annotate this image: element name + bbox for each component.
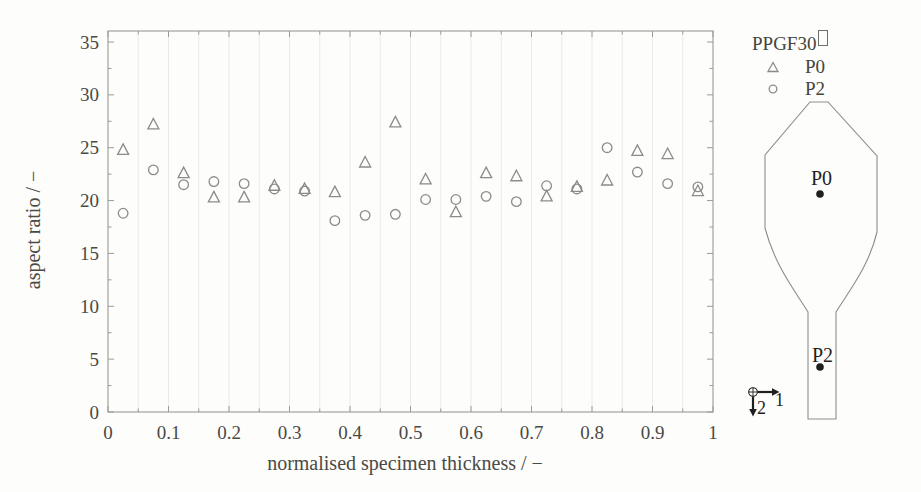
x-tick-label: 0.9	[641, 422, 665, 443]
y-tick-label: 20	[80, 190, 99, 211]
p0-label: P0	[811, 167, 832, 189]
p0-triangle-marker	[450, 206, 461, 217]
legend-superscript-box-icon	[818, 30, 828, 46]
p2-circle-marker	[481, 192, 491, 202]
x-tick-label: 0.6	[459, 422, 483, 443]
p2-circle-marker	[663, 179, 673, 189]
x-tick-label: 1	[708, 422, 718, 443]
y-tick-label: 10	[80, 296, 99, 317]
p0-triangle-marker	[662, 148, 673, 159]
x-tick-label: 0.3	[278, 422, 302, 443]
p2-circle-marker	[270, 184, 280, 194]
x-tick-label: 0.2	[217, 422, 241, 443]
p0-triangle-marker	[118, 144, 129, 155]
p2-label: P2	[812, 344, 833, 366]
x-tick-label: 0.8	[580, 422, 604, 443]
axis1-label: 1	[775, 390, 784, 410]
axis2-label: 2	[757, 398, 766, 418]
p2-circle-marker	[391, 210, 401, 220]
p2-circle-marker	[360, 211, 370, 221]
p2-circle-marker	[239, 179, 249, 189]
figure: P0 P2 1 2 00.10.20.30.40.50.60.70.80.910…	[0, 0, 921, 492]
p0-triangle-marker	[148, 118, 159, 128]
p0-triangle-marker	[239, 191, 250, 202]
circle-marker-icon	[765, 82, 781, 96]
p2-circle-marker	[572, 184, 582, 194]
p0-triangle-marker	[602, 174, 613, 185]
x-tick-label: 0.1	[157, 422, 181, 443]
p0-triangle-marker	[420, 173, 431, 184]
x-tick-label: 0.4	[338, 422, 362, 443]
x-tick-label: 0.5	[399, 422, 423, 443]
specimen-outline	[765, 102, 877, 419]
y-axis-title: aspect ratio / −	[22, 145, 44, 315]
p0-triangle-marker	[390, 116, 401, 127]
y-tick-label: 5	[90, 349, 100, 370]
triangle-marker-icon	[765, 60, 781, 74]
y-tick-label: 25	[80, 137, 99, 158]
axis2-arrowhead-icon	[749, 409, 757, 417]
p2-circle-marker	[451, 195, 461, 205]
p2-circle-marker	[300, 186, 310, 196]
specimen-diagram: P0 P2 1 2	[749, 102, 877, 419]
legend-label-p0: P0	[805, 57, 825, 77]
y-tick-label: 35	[80, 32, 99, 53]
p0-dot	[816, 190, 824, 198]
x-axis-title: normalised specimen thickness / −	[205, 452, 605, 475]
p2-circle-marker	[179, 180, 189, 190]
p2-circle-marker	[421, 195, 431, 205]
p0-triangle-marker	[632, 145, 643, 156]
p0-triangle-marker	[208, 191, 219, 202]
p0-triangle-marker	[541, 190, 552, 201]
p0-triangle-marker	[178, 167, 189, 178]
y-tick-label: 15	[80, 243, 99, 264]
p2-circle-marker	[633, 167, 643, 177]
legend-label-p2: P2	[805, 79, 825, 99]
p0-triangle-marker	[329, 186, 340, 197]
p2-circle-marker	[602, 143, 612, 153]
legend: PPGF30 P0 P2	[752, 30, 828, 99]
p2-circle-marker	[693, 182, 703, 192]
y-tick-label: 30	[80, 84, 99, 105]
p2-circle-marker	[149, 165, 159, 175]
p0-triangle-marker	[360, 157, 371, 168]
x-tick-label: 0	[103, 422, 113, 443]
coordinate-system: 1 2	[749, 388, 784, 418]
p2-dot	[816, 363, 824, 371]
x-tick-label: 0.7	[520, 422, 544, 443]
legend-entry-p2: P2	[752, 79, 828, 99]
legend-title: PPGF30	[752, 33, 816, 54]
y-tick-label: 0	[90, 402, 100, 423]
p2-circle-marker	[330, 216, 340, 226]
p0-triangle-marker	[511, 170, 522, 181]
p2-circle-marker	[512, 197, 522, 207]
legend-entry-p0: P0	[752, 57, 828, 77]
p2-circle-marker	[209, 177, 219, 187]
p0-triangle-marker	[481, 167, 492, 178]
p2-circle-marker	[118, 208, 128, 218]
p0-triangle-marker	[269, 180, 280, 191]
